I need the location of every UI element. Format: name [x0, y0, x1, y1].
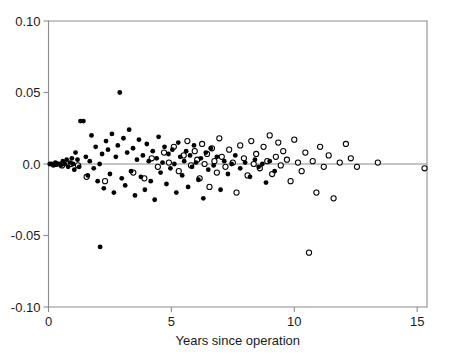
data-point-open: [251, 161, 256, 166]
data-point-filled: [158, 170, 163, 175]
data-point-filled: [110, 132, 115, 137]
data-point-filled: [115, 143, 120, 148]
data-point-filled: [108, 172, 113, 177]
data-point-filled: [201, 196, 206, 201]
data-point-filled: [188, 153, 193, 158]
plot-canvas: 0.100.050.0-0.05-0.10 051015 Years since…: [0, 0, 453, 358]
data-point-filled: [91, 166, 96, 171]
data-point-filled: [83, 154, 88, 159]
data-point-filled: [178, 154, 183, 159]
data-point-filled: [69, 156, 74, 161]
data-point-filled: [229, 162, 234, 167]
data-point-filled: [184, 149, 189, 154]
data-point-filled: [186, 184, 191, 189]
data-point-filled: [85, 173, 90, 178]
data-point-filled: [172, 162, 177, 167]
data-point-open: [288, 179, 293, 184]
data-point-open: [299, 169, 304, 174]
data-point-filled: [267, 159, 272, 164]
data-point-open: [219, 154, 224, 159]
data-point-open: [273, 154, 278, 159]
scatter-plot-figure: 0.100.050.0-0.05-0.10 051015 Years since…: [0, 0, 453, 358]
data-point-filled: [168, 166, 173, 171]
data-point-open: [303, 150, 308, 155]
data-point-filled: [111, 190, 116, 195]
data-point-open: [331, 196, 336, 201]
data-point-open: [214, 170, 219, 175]
data-point-filled: [95, 179, 100, 184]
x-tick-label: 0: [45, 314, 52, 329]
data-point-open: [234, 190, 239, 195]
data-point-open: [306, 250, 311, 255]
filled-circle-series: [47, 90, 277, 249]
y-axis-ticks: 0.100.050.0-0.05-0.10: [11, 14, 49, 315]
data-point-filled: [264, 180, 269, 185]
y-tick-label: 0.0: [22, 157, 40, 172]
data-point-open: [185, 139, 190, 144]
data-point-open: [212, 159, 217, 164]
y-tick-label: 0.05: [15, 85, 40, 100]
data-point-filled: [139, 174, 144, 179]
data-point-open: [217, 136, 222, 141]
data-point-filled: [192, 143, 197, 148]
data-point-filled: [81, 119, 86, 124]
x-tick-label: 15: [410, 314, 424, 329]
data-point-filled: [206, 167, 211, 172]
data-point-open: [310, 159, 315, 164]
data-point-filled: [123, 183, 128, 188]
data-point-open: [207, 184, 212, 189]
data-point-filled: [75, 157, 80, 162]
data-point-filled: [117, 90, 122, 95]
data-point-open: [278, 163, 283, 168]
data-point-filled: [174, 190, 179, 195]
data-point-open: [337, 160, 342, 165]
data-point-filled: [129, 169, 134, 174]
data-point-open: [192, 149, 197, 154]
data-point-open: [348, 156, 353, 161]
data-point-filled: [260, 162, 265, 167]
data-point-open: [292, 137, 297, 142]
y-tick-label: -0.10: [11, 300, 41, 315]
y-tick-label: -0.05: [11, 228, 41, 243]
data-point-filled: [196, 177, 201, 182]
data-point-filled: [194, 160, 199, 165]
data-point-open: [284, 157, 289, 162]
data-point-filled: [113, 154, 118, 159]
data-point-open: [321, 164, 326, 169]
data-point-filled: [73, 150, 78, 155]
x-axis-title: Years since operation: [175, 333, 300, 348]
y-tick-label: 0.10: [15, 14, 40, 29]
data-point-filled: [101, 186, 106, 191]
data-point-filled: [190, 164, 195, 169]
data-point-filled: [106, 147, 111, 152]
data-point-filled: [222, 159, 227, 164]
data-point-filled: [166, 152, 171, 157]
data-point-open: [238, 143, 243, 148]
data-point-open: [295, 160, 300, 165]
data-point-filled: [97, 162, 102, 167]
data-point-filled: [160, 160, 165, 165]
data-point-open: [254, 151, 259, 156]
data-point-open: [267, 133, 272, 138]
data-point-filled: [248, 174, 253, 179]
data-point-filled: [203, 150, 208, 155]
data-point-filled: [164, 182, 169, 187]
data-point-filled: [198, 156, 203, 161]
data-point-filled: [121, 136, 126, 141]
data-point-filled: [226, 172, 231, 177]
x-axis-ticks: 051015: [45, 307, 425, 329]
data-point-open: [166, 160, 171, 165]
data-point-filled: [66, 164, 71, 169]
data-point-filled: [125, 150, 130, 155]
data-point-filled: [127, 127, 132, 132]
data-point-filled: [214, 154, 219, 159]
data-point-filled: [253, 157, 258, 162]
data-point-filled: [208, 146, 213, 151]
data-point-filled: [233, 153, 238, 158]
data-point-open: [155, 164, 160, 169]
data-point-filled: [218, 187, 223, 192]
data-point-filled: [272, 169, 277, 174]
data-point-filled: [144, 142, 149, 147]
data-point-filled: [119, 176, 124, 181]
data-point-filled: [142, 187, 147, 192]
